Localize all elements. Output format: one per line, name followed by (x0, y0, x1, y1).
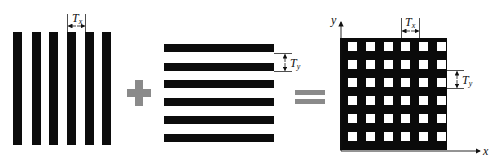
ty-label-2: Ty (462, 74, 472, 88)
axes (0, 0, 495, 161)
x-axis-label: x (483, 145, 488, 157)
tx-label-2: Tx (405, 16, 415, 30)
y-axis-label: y (331, 14, 336, 26)
